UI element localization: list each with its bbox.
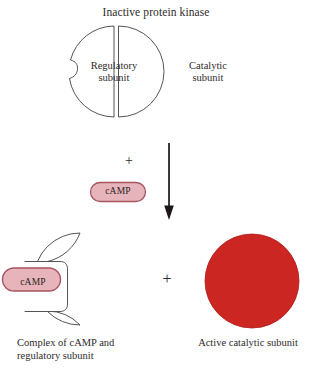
- plus-sign-products: +: [150, 270, 184, 288]
- camp-bound-label: cAMP: [6, 277, 60, 287]
- catalytic-subunit-label: Catalyticsubunit: [166, 60, 250, 84]
- reaction-arrow-icon: [164, 143, 174, 220]
- catalytic-subunit-label-line2: subunit: [193, 72, 224, 83]
- active-catalytic-subunit-shape: [205, 234, 299, 328]
- protein-kinase-activation-diagram: Inactive protein kinase Regulatorysubuni…: [0, 0, 312, 372]
- complex-caption-line2: regulatory subunit: [17, 350, 94, 361]
- regulatory-subunit-label: Regulatorysubunit: [72, 60, 156, 84]
- diagram-artwork: [0, 0, 312, 372]
- active-catalytic-caption: Active catalytic subunit: [186, 337, 310, 349]
- regulatory-subunit-label-line2: subunit: [99, 72, 130, 83]
- complex-caption-line1: Complex of cAMP and: [17, 337, 114, 348]
- complex-caption: Complex of cAMP andregulatory subunit: [17, 337, 167, 362]
- plus-sign-reactants: +: [112, 153, 146, 169]
- catalytic-subunit-label-line1: Catalytic: [189, 60, 227, 71]
- camp-ligand-label: cAMP: [92, 186, 144, 196]
- regulatory-subunit-label-line1: Regulatory: [91, 60, 138, 71]
- diagram-title: Inactive protein kinase: [0, 6, 312, 19]
